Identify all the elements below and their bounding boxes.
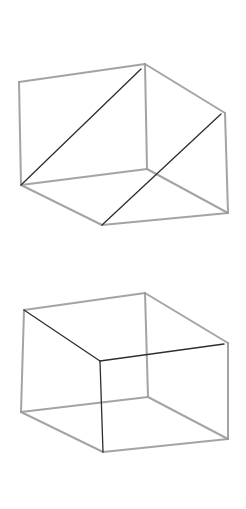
cube-edge [19,64,145,82]
highlighted-edge [100,361,103,452]
highlighted-edge [21,69,141,185]
cube-top-sketch [19,64,228,225]
cube-edge [19,82,21,185]
cube-edge [21,169,147,185]
cube-edge [225,113,228,213]
cube-edge [24,293,145,310]
drawing-canvas [0,0,246,509]
highlighted-edge [100,344,224,361]
cube-edge [145,293,148,397]
cube-edge [145,64,225,113]
cube-bottom-sketch [21,293,228,452]
highlighted-edge [102,114,221,225]
cube-edge [21,185,102,225]
cube-edge [21,397,148,412]
cube-edge [148,397,228,439]
cube-edge [147,169,228,213]
cube-edge [145,293,228,343]
highlighted-edge [24,310,100,361]
cube-edge [145,64,147,169]
cube-edge [21,412,103,452]
cube-edge [103,439,228,452]
cube-edge [102,213,228,225]
cube-edge [21,310,24,412]
